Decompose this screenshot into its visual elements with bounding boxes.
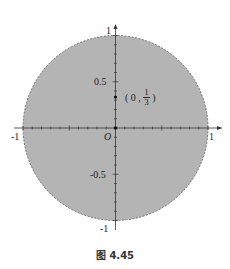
figure-caption: 图 4.45	[0, 247, 230, 262]
point-label-close: )	[152, 92, 155, 103]
figure: 1 0.5 -0.5 -1 -1 1 O ( 0 , 1 3 ) 图 4.45	[0, 0, 230, 269]
x-tick-label-neg-1: -1	[11, 132, 19, 142]
y-tick-label-neg-0-5: -0.5	[90, 170, 106, 180]
origin-point	[114, 126, 118, 130]
x-tick-label-1: 1	[209, 132, 214, 142]
point-label-open: ( 0 ,	[125, 92, 141, 103]
x-axis-arrow-icon	[217, 126, 222, 130]
fraction-denominator: 3	[143, 98, 150, 107]
y-tick-label-0-5: 0.5	[94, 77, 107, 87]
origin-label: O	[104, 132, 111, 142]
point-label-fraction: 1 3	[143, 88, 150, 107]
point-0-one-third	[114, 95, 117, 98]
point-label: ( 0 , 1 3 )	[125, 88, 156, 107]
y-tick-label-neg-1: -1	[100, 224, 108, 234]
y-tick-label-1: 1	[106, 26, 111, 36]
plot-area	[0, 0, 230, 269]
y-axis-arrow-icon	[114, 24, 118, 29]
